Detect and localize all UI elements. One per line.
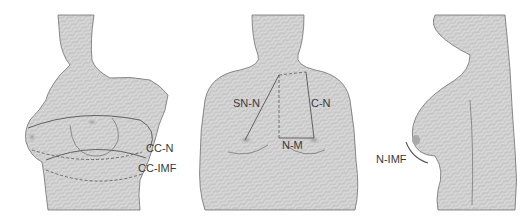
nipple-icon (86, 118, 98, 126)
label-cc-n: CC-N (146, 143, 174, 154)
oblique-torso (26, 15, 169, 210)
label-c-n: C-N (311, 98, 331, 109)
anatomy-figure (0, 0, 530, 224)
frontal-torso (200, 15, 358, 210)
label-sn-n: SN-N (233, 98, 260, 109)
label-n-imf: N-IMF (376, 154, 407, 165)
label-n-m: N-M (282, 140, 303, 151)
lateral-torso (406, 15, 517, 210)
label-cc-imf: CC-IMF (138, 163, 177, 174)
